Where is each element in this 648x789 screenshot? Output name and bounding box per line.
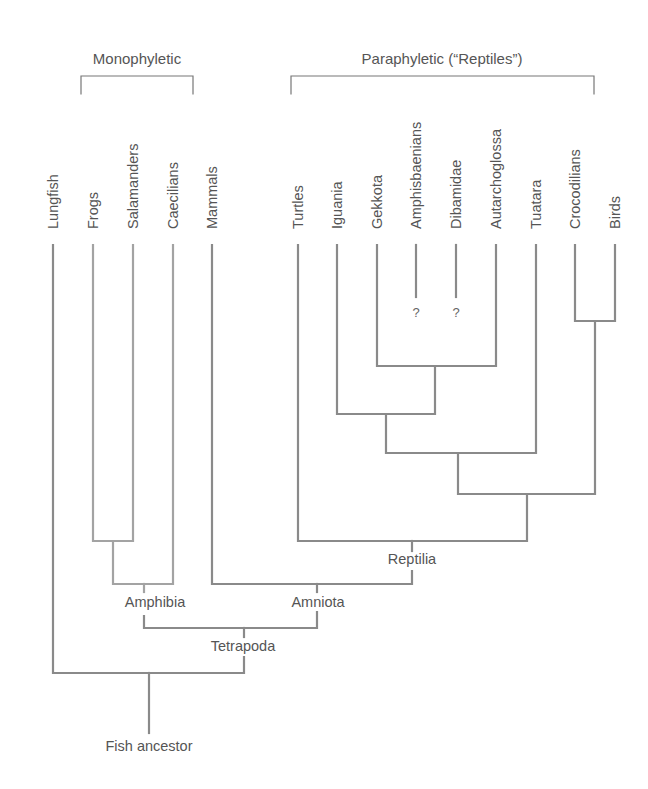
taxon-frogs: Frogs <box>85 192 101 229</box>
taxon-mammals: Mammals <box>204 166 220 229</box>
taxon-caecilians: Caecilians <box>165 162 181 229</box>
monophyletic-bracket <box>81 76 193 94</box>
monophyletic-label: Monophyletic <box>93 50 181 67</box>
uncertain-marker-amphisbaenians: ? <box>412 305 419 320</box>
uncertain-marker-dibamidae: ? <box>452 305 459 320</box>
taxon-amphisbaenians: Amphisbaenians <box>408 122 424 229</box>
paraphyletic-bracket <box>291 76 594 94</box>
node-label-amphibia: Amphibia <box>125 594 185 610</box>
taxon-salamanders: Salamanders <box>125 144 141 229</box>
paraphyletic-label: Paraphyletic (“Reptiles”) <box>362 50 523 67</box>
node-label-tetrapoda: Tetrapoda <box>211 638 276 654</box>
taxon-gekkota: Gekkota <box>369 175 385 229</box>
node-label-reptilia: Reptilia <box>388 551 436 567</box>
node-label-amniota: Amniota <box>291 594 344 610</box>
taxon-iguania: Iguania <box>329 181 345 229</box>
taxon-turtles: Turtles <box>290 185 306 229</box>
cladogram <box>0 0 648 789</box>
taxon-tuatara: Tuatara <box>528 180 544 229</box>
node-label-fish-ancestor: Fish ancestor <box>105 738 192 754</box>
taxon-autarchoglossa: Autarchoglossa <box>488 129 504 229</box>
taxon-crocodilians: Crocodilians <box>567 149 583 229</box>
taxon-birds: Birds <box>607 196 623 229</box>
taxon-lungfish: Lungfish <box>45 174 61 229</box>
amphibian-branches <box>93 245 173 592</box>
taxon-dibamidae: Dibamidae <box>448 160 464 229</box>
